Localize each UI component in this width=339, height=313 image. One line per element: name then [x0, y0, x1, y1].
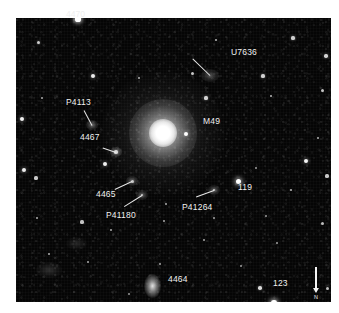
field-star [114, 150, 117, 153]
sky-background-noise [16, 18, 331, 302]
field-star [80, 220, 83, 223]
field-star [191, 72, 194, 75]
label-m49: M49 [203, 117, 220, 126]
label-4467: 4467 [80, 133, 100, 142]
faint-diffuse-sw [36, 262, 62, 278]
field-star [291, 36, 294, 39]
field-star [317, 137, 320, 140]
field-star [215, 39, 218, 42]
field-star [270, 95, 273, 98]
label-p41180: P41180 [106, 211, 136, 220]
field-star [91, 74, 95, 78]
label-119: 119 [238, 183, 252, 192]
clipped-top-label: 4470 [66, 11, 85, 18]
galaxy-p4113 [86, 120, 98, 130]
field-star [290, 189, 293, 192]
label-4465: 4465 [96, 190, 116, 199]
field-star [103, 162, 108, 167]
galaxy-4467 [110, 147, 122, 157]
companion-star-near-m49 [184, 132, 188, 136]
leader-line-p4113 [84, 110, 93, 125]
leader-line-p41264 [196, 190, 214, 197]
m49-mid-halo [129, 99, 197, 167]
field-star [165, 203, 168, 206]
sky-grain-overlay [16, 18, 331, 302]
label-u7636: U7636 [231, 48, 257, 57]
field-star [141, 194, 144, 197]
galaxy-u7636 [201, 69, 219, 82]
field-star [75, 18, 80, 22]
m49-outer-halo [101, 71, 225, 195]
field-star [159, 263, 162, 266]
field-star [128, 293, 131, 296]
leader-line-4467 [103, 147, 117, 153]
field-star [258, 286, 262, 290]
leader-line-p41180 [124, 195, 142, 207]
field-star [255, 167, 258, 170]
field-star [48, 253, 51, 256]
galaxy-4464 [144, 274, 161, 298]
faint-diffuse-w [66, 237, 87, 250]
field-star [240, 265, 243, 268]
field-star [325, 174, 328, 177]
field-star [22, 168, 26, 172]
label-p4113: P4113 [66, 98, 91, 107]
leader-line-4465 [115, 181, 133, 190]
field-star [321, 89, 324, 92]
field-star [203, 239, 206, 242]
sky-image-frame: U7636 M49 P4113 4467 4465 P41180 P41264 … [16, 18, 331, 302]
compass-arrow-head [313, 288, 319, 293]
compass-arrow-shaft [315, 267, 317, 289]
field-star [213, 217, 216, 220]
field-star [37, 41, 40, 44]
field-star [276, 242, 279, 245]
clipped-top-label-region: 4470 [16, 11, 331, 18]
field-star [36, 217, 39, 220]
galaxy-4465 [126, 176, 138, 186]
field-star [304, 159, 309, 164]
label-4464: 4464 [168, 275, 188, 284]
field-star [204, 96, 207, 99]
astronomy-figure: 4470 [0, 0, 339, 313]
field-star [138, 77, 141, 80]
label-p41264: P41264 [182, 203, 213, 212]
label-123: 123 [273, 279, 288, 288]
field-star [131, 180, 134, 183]
leader-line-u7636 [192, 58, 210, 75]
field-star [34, 176, 37, 179]
field-star [324, 54, 327, 57]
field-star [87, 261, 90, 264]
field-star [326, 287, 329, 290]
field-star [265, 215, 268, 218]
field-star [41, 97, 44, 100]
field-star [271, 300, 276, 302]
m49-core [149, 119, 177, 147]
field-star [261, 74, 264, 77]
field-star [213, 189, 216, 192]
field-star [20, 117, 24, 121]
galaxy-p41180 [136, 190, 148, 200]
galaxy-p41264 [208, 185, 220, 195]
field-star [321, 222, 324, 225]
compass-north-label: N [314, 294, 318, 300]
field-star [110, 229, 113, 232]
field-star [163, 220, 166, 223]
